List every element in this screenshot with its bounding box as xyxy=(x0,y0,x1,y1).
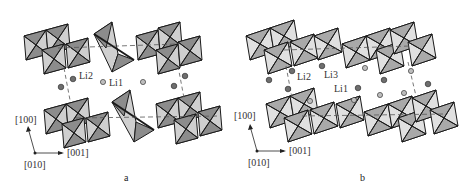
axis-label-100: [100] xyxy=(234,111,256,121)
site-label-li2: Li2 xyxy=(297,72,311,82)
panel-a: Li2 Li1 [100] [001] [010] a xyxy=(0,0,232,189)
panel-caption-a: a xyxy=(124,172,128,183)
li2-atom xyxy=(70,76,76,82)
top-layer-a xyxy=(24,22,202,74)
axis-label-100: [100] xyxy=(15,115,37,125)
axis-label-010: [010] xyxy=(24,160,46,170)
site-label-li1: Li1 xyxy=(334,84,348,94)
axis-label-001: [001] xyxy=(289,146,311,156)
li1-atom xyxy=(307,98,312,103)
site-label-li2: Li2 xyxy=(79,71,93,81)
axis-indicator-b xyxy=(248,124,286,153)
panel-b: Li2 Li3 Li1 [100] [001] [010] b xyxy=(232,0,464,189)
bottom-layer-b xyxy=(266,88,458,142)
li3-atom xyxy=(319,63,325,69)
top-layer-b xyxy=(246,20,436,74)
axis-label-001: [001] xyxy=(67,148,89,158)
site-label-li3: Li3 xyxy=(324,70,338,80)
bottom-layer-a xyxy=(44,90,222,148)
li1-atom xyxy=(100,79,105,84)
panel-caption-b: b xyxy=(360,172,365,183)
axis-label-010: [010] xyxy=(248,158,270,168)
site-label-li1: Li1 xyxy=(109,78,123,88)
li-atoms-a xyxy=(58,73,188,90)
li2-atom xyxy=(289,68,295,74)
